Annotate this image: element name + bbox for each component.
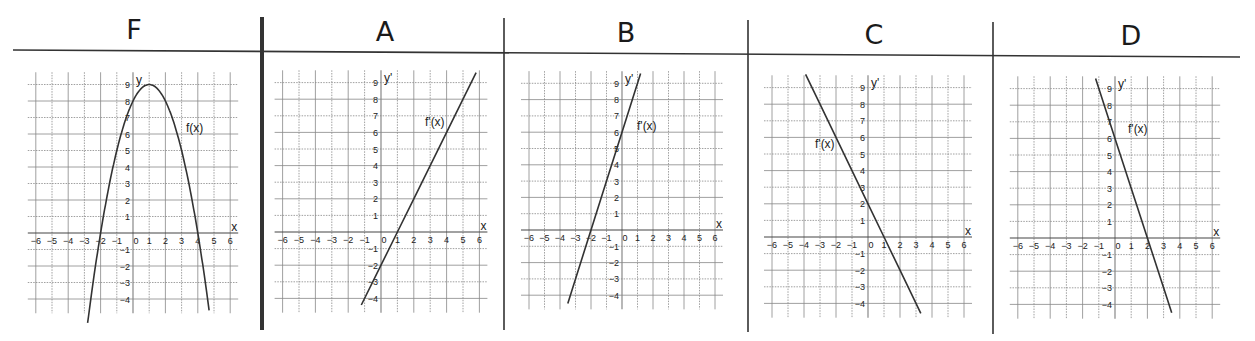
y-tick-label: 4: [1107, 167, 1112, 177]
graph-d: −6−5−4−3−2−10123456−4−3−2−1123456789y'xf…: [0, 0, 1255, 341]
y-tick-label: 6: [1107, 134, 1112, 144]
y-tick-label: −2: [1102, 267, 1112, 277]
y-tick-label: 3: [1107, 184, 1112, 194]
x-tick-label: 3: [1161, 241, 1166, 251]
x-axis-label: x: [1213, 225, 1219, 239]
x-tick-label: 5: [1193, 241, 1198, 251]
y-tick-label: 9: [1107, 84, 1112, 94]
x-tick-label: 1: [1129, 241, 1134, 251]
x-tick-label: −5: [1029, 241, 1039, 251]
y-tick-label: −4: [1102, 300, 1112, 310]
y-tick-label: 1: [1107, 217, 1112, 227]
curve-line: [1096, 79, 1172, 313]
x-tick-label: −3: [1061, 241, 1071, 251]
graph-matching-worksheet: F A B C D −6−5−4−3−2−10123456−4−3−2−1123…: [0, 0, 1255, 341]
x-tick-label: 0: [1115, 241, 1120, 251]
y-tick-label: 5: [1107, 151, 1112, 161]
curve-label: f'(x): [1128, 122, 1148, 136]
x-tick-label: −6: [1013, 241, 1023, 251]
x-tick-label: −4: [1045, 241, 1055, 251]
y-tick-label: 8: [1107, 101, 1112, 111]
x-tick-label: 6: [1210, 241, 1215, 251]
y-tick-label: 2: [1107, 200, 1112, 210]
y-tick-label: −3: [1102, 283, 1112, 293]
y-tick-label: −1: [1102, 250, 1112, 260]
y-axis-label: y': [1118, 77, 1126, 91]
x-tick-label: 4: [1177, 241, 1182, 251]
x-tick-label: −2: [1077, 241, 1087, 251]
